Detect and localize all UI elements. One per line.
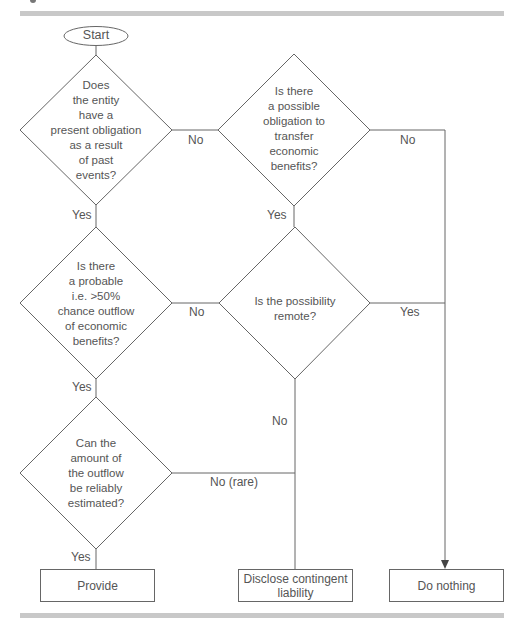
edge-label-q1-yes: Yes bbox=[72, 208, 92, 222]
outcome-do-nothing: Do nothing bbox=[389, 569, 504, 602]
outcome-disclose-contingent-liability: Disclose contingent liability bbox=[238, 569, 353, 602]
edge-label-q2-no: No bbox=[400, 133, 415, 147]
edge-label-q5-no: No (rare) bbox=[210, 475, 258, 489]
edge-label-q1-no: No bbox=[188, 133, 203, 147]
outcome-provide-label: Provide bbox=[77, 579, 118, 593]
edge-label-q3-yes: Yes bbox=[72, 380, 92, 394]
edge-label-q2-yes: Yes bbox=[267, 208, 287, 222]
decision-q2: Is there a possible obligation to transf… bbox=[234, 84, 354, 174]
outcome-provide: Provide bbox=[40, 569, 155, 602]
outcome-disclose-label: Disclose contingent liability bbox=[243, 572, 347, 600]
edge-label-q4-yes: Yes bbox=[400, 305, 420, 319]
edge-label-q4-no: No bbox=[272, 414, 287, 428]
decision-q5: Can the amount of the outflow be reliabl… bbox=[36, 436, 156, 511]
outcome-do-nothing-label: Do nothing bbox=[417, 579, 475, 593]
decision-q1: Does the entity have a present obligatio… bbox=[36, 78, 156, 183]
edge-label-q3-no: No bbox=[189, 305, 204, 319]
decision-q3: Is there a probable i.e. >50% chance out… bbox=[36, 259, 156, 349]
edge-label-q5-yes: Yes bbox=[71, 550, 91, 564]
start-node: Start bbox=[64, 28, 128, 43]
arrowhead-icon bbox=[441, 560, 449, 569]
decision-q4: Is the possibility remote? bbox=[230, 294, 360, 324]
